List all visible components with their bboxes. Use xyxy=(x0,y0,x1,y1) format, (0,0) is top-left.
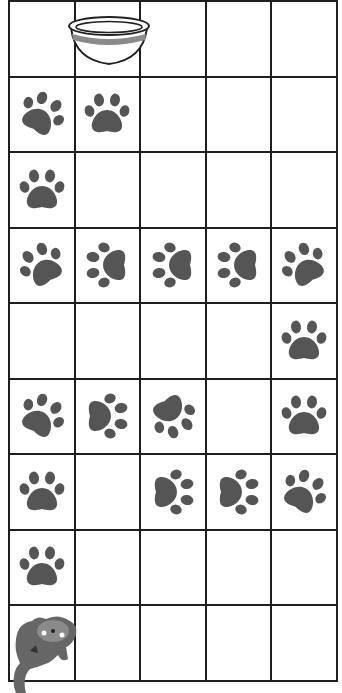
grid-cell-r2-c1[interactable] xyxy=(76,153,142,229)
paw-print-icon xyxy=(8,231,76,299)
paw-print-icon xyxy=(82,391,132,441)
grid-cell-r1-c4[interactable] xyxy=(272,78,338,154)
grid-cell-r8-c2[interactable] xyxy=(141,606,207,682)
grid-cell-r6-c2[interactable] xyxy=(141,455,207,531)
paw-print-icon xyxy=(139,382,207,450)
grid-cell-r6-c4[interactable] xyxy=(272,455,338,531)
grid-cell-r6-c3[interactable] xyxy=(207,455,273,531)
grid-cell-r5-c4[interactable] xyxy=(272,380,338,456)
grid-cell-r6-c1[interactable] xyxy=(76,455,142,531)
grid-cell-r1-c3[interactable] xyxy=(207,78,273,154)
grid-cell-r0-c0[interactable] xyxy=(10,2,76,78)
grid-cell-r7-c4[interactable] xyxy=(272,531,338,607)
paw-print-icon xyxy=(17,467,67,517)
grid xyxy=(8,0,338,682)
grid-cell-r3-c0[interactable] xyxy=(10,229,76,305)
paw-print-icon xyxy=(148,467,198,517)
grid-cell-r8-c3[interactable] xyxy=(207,606,273,682)
paw-print-icon xyxy=(8,80,76,148)
grid-cell-r4-c2[interactable] xyxy=(141,304,207,380)
paw-print-icon xyxy=(270,458,338,526)
grid-cell-r6-c0[interactable] xyxy=(10,455,76,531)
grid-cell-r5-c3[interactable] xyxy=(207,380,273,456)
grid-cell-r1-c1[interactable] xyxy=(76,78,142,154)
grid-cell-r7-c1[interactable] xyxy=(76,531,142,607)
grid-cell-r7-c0[interactable] xyxy=(10,531,76,607)
paw-print-icon xyxy=(17,542,67,592)
grid-cell-r5-c2[interactable] xyxy=(141,380,207,456)
paw-print-icon xyxy=(279,391,329,441)
paw-print-icon xyxy=(270,231,338,299)
grid-cell-r8-c4[interactable] xyxy=(272,606,338,682)
paw-print-icon xyxy=(8,382,76,450)
paw-print-icon xyxy=(17,165,67,215)
grid-cell-r0-c4[interactable] xyxy=(272,2,338,78)
grid-cell-r3-c3[interactable] xyxy=(207,229,273,305)
paw-print-icon xyxy=(213,240,263,290)
grid-cell-r4-c0[interactable] xyxy=(10,304,76,380)
grid-cell-r3-c4[interactable] xyxy=(272,229,338,305)
grid-cell-r4-c1[interactable] xyxy=(76,304,142,380)
grid-cell-r3-c1[interactable] xyxy=(76,229,142,305)
grid-cell-r8-c1[interactable] xyxy=(76,606,142,682)
paw-print-icon xyxy=(82,240,132,290)
grid-cell-r5-c0[interactable] xyxy=(10,380,76,456)
grid-cell-r7-c2[interactable] xyxy=(141,531,207,607)
food-bowl-icon xyxy=(67,10,151,66)
grid-cell-r5-c1[interactable] xyxy=(76,380,142,456)
game-board xyxy=(8,0,342,681)
cat-icon xyxy=(8,611,83,693)
grid-cell-r3-c2[interactable] xyxy=(141,229,207,305)
grid-cell-r0-c3[interactable] xyxy=(207,2,273,78)
paw-print-icon xyxy=(213,467,263,517)
paw-print-icon xyxy=(279,316,329,366)
grid-cell-r1-c2[interactable] xyxy=(141,78,207,154)
paw-print-icon xyxy=(82,89,132,139)
grid-cell-r2-c2[interactable] xyxy=(141,153,207,229)
grid-cell-r2-c4[interactable] xyxy=(272,153,338,229)
grid-cell-r7-c3[interactable] xyxy=(207,531,273,607)
paw-print-icon xyxy=(148,240,198,290)
grid-cell-r4-c4[interactable] xyxy=(272,304,338,380)
grid-cell-r4-c3[interactable] xyxy=(207,304,273,380)
grid-cell-r2-c0[interactable] xyxy=(10,153,76,229)
grid-cell-r1-c0[interactable] xyxy=(10,78,76,154)
grid-cell-r2-c3[interactable] xyxy=(207,153,273,229)
